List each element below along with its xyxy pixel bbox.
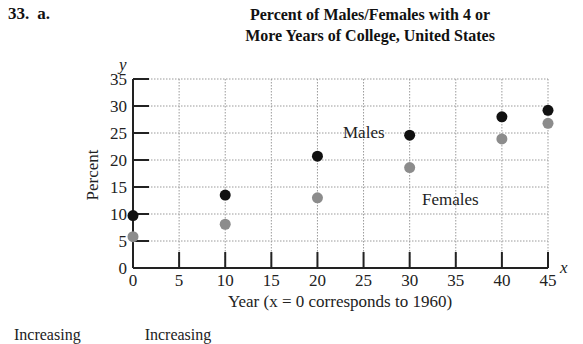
x-tick-label: 10 — [217, 271, 234, 290]
females-data-point — [220, 219, 231, 230]
x-variable-label: x — [559, 258, 568, 277]
females-data-point — [312, 192, 323, 203]
females-data-point — [496, 133, 507, 144]
next-part-text-2: Increasing — [145, 326, 212, 343]
x-tick-label: 35 — [447, 271, 464, 290]
males-data-point — [220, 190, 231, 201]
x-tick-label: 15 — [263, 271, 280, 290]
males-data-point — [128, 210, 139, 221]
females-data-point — [543, 118, 554, 129]
x-tick-label: 0 — [129, 271, 138, 290]
next-part-text-1: Increasing — [14, 326, 81, 343]
y-tick-label: 30 — [110, 97, 127, 116]
y-tick-label: 25 — [110, 124, 127, 143]
males-data-point — [496, 111, 507, 122]
y-tick-label: 15 — [110, 178, 127, 197]
y-variable-label: y — [117, 55, 127, 74]
females-data-point — [128, 231, 139, 242]
y-tick-label: 20 — [110, 151, 127, 170]
x-tick-label: 20 — [309, 271, 326, 290]
x-tick-label: 30 — [401, 271, 418, 290]
males-data-point — [543, 105, 554, 116]
females-label: Females — [422, 190, 479, 209]
x-tick-label: 5 — [175, 271, 184, 290]
males-data-point — [312, 151, 323, 162]
y-tick-label: 5 — [119, 232, 128, 251]
x-axis-title: Year (x = 0 corresponds to 1960) — [228, 292, 452, 311]
y-tick-label: 0 — [119, 259, 128, 278]
x-tick-label: 45 — [540, 271, 557, 290]
x-tick-label: 25 — [355, 271, 372, 290]
x-tick-label: 40 — [493, 271, 510, 290]
y-tick-label: 10 — [110, 205, 127, 224]
males-label: Males — [343, 123, 385, 142]
y-axis-title: Percent — [83, 149, 102, 200]
males-data-point — [404, 130, 415, 141]
females-data-point — [404, 162, 415, 173]
next-part-text: Increasing Increasing — [14, 326, 271, 344]
